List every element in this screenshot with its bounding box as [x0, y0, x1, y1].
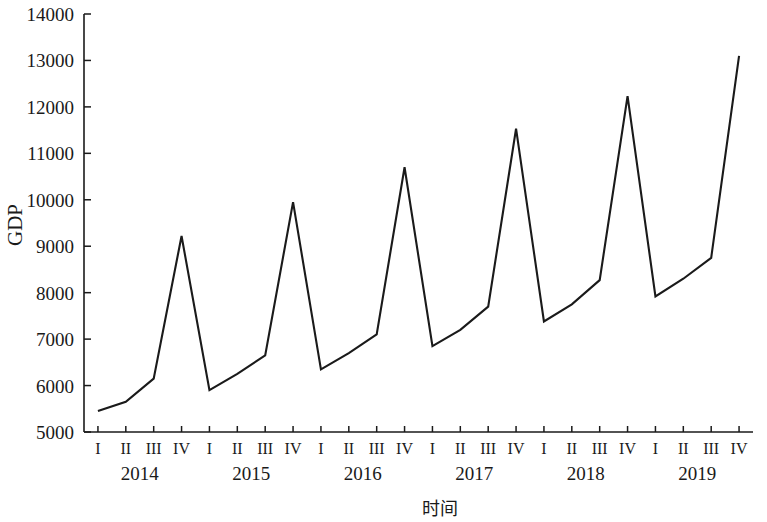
- y-axis-tick-label: 13000: [27, 50, 75, 71]
- plot-series-group: [98, 56, 739, 411]
- y-axis-tick-label: 7000: [36, 329, 74, 350]
- x-axis-year-label: 2016: [344, 463, 382, 484]
- x-axis-tick-marks: [98, 426, 739, 432]
- x-axis-year-label: 2019: [678, 463, 716, 484]
- x-axis-group: IIIIIIIVIIIIIIIVIIIIIIIVIIIIIIIVIIIIIIIV…: [84, 426, 753, 484]
- x-axis-quarter-labels: IIIIIIIVIIIIIIIVIIIIIIIVIIIIIIIVIIIIIIIV…: [95, 440, 748, 457]
- y-axis-group: 1400013000120001100010000900080007000600…: [27, 4, 92, 443]
- x-axis-year-labels: 201420152016201720182019: [121, 463, 717, 484]
- y-axis-tick-label: 8000: [36, 283, 74, 304]
- x-axis-year-label: 2017: [455, 463, 493, 484]
- x-axis-quarter-label: III: [592, 440, 608, 457]
- x-axis-quarter-label: I: [207, 440, 212, 457]
- x-axis-quarter-label: I: [430, 440, 435, 457]
- y-axis-tick-label: 14000: [27, 4, 75, 25]
- x-axis-quarter-label: III: [257, 440, 273, 457]
- y-axis-tick-label: 10000: [27, 190, 75, 211]
- x-axis-quarter-label: II: [120, 440, 131, 457]
- x-axis-quarter-label: IV: [173, 440, 190, 457]
- x-axis-quarter-label: II: [566, 440, 577, 457]
- x-axis-quarter-label: I: [541, 440, 546, 457]
- x-axis-quarter-label: II: [455, 440, 466, 457]
- y-axis-tick-marks: [84, 14, 91, 432]
- x-axis-year-label: 2014: [121, 463, 160, 484]
- x-axis-quarter-label: IV: [619, 440, 636, 457]
- x-axis-quarter-label: I: [318, 440, 323, 457]
- y-axis-title: GDP: [3, 204, 27, 246]
- x-axis-quarter-label: III: [369, 440, 385, 457]
- x-axis-quarter-label: IV: [396, 440, 413, 457]
- x-axis-year-label: 2018: [567, 463, 605, 484]
- x-axis-quarter-label: III: [480, 440, 496, 457]
- x-axis-quarter-label: I: [653, 440, 658, 457]
- y-axis-tick-label: 5000: [36, 422, 74, 443]
- x-axis-quarter-label: III: [703, 440, 719, 457]
- y-axis-tick-label: 6000: [36, 376, 74, 397]
- x-axis-title: 时间: [422, 498, 458, 519]
- x-axis-quarter-label: III: [146, 440, 162, 457]
- x-axis-quarter-label: II: [343, 440, 354, 457]
- gdp-series-line: [98, 56, 739, 411]
- x-axis-quarter-label: IV: [731, 440, 748, 457]
- y-axis-tick-label: 12000: [27, 97, 75, 118]
- x-axis-quarter-label: IV: [508, 440, 525, 457]
- x-axis-quarter-label: II: [678, 440, 689, 457]
- y-axis-tick-label: 11000: [27, 143, 74, 164]
- chart-canvas: 1400013000120001100010000900080007000600…: [0, 0, 767, 522]
- x-axis-year-label: 2015: [232, 463, 270, 484]
- x-axis-quarter-label: II: [232, 440, 243, 457]
- x-axis-quarter-label: I: [95, 440, 100, 457]
- gdp-line-chart: 1400013000120001100010000900080007000600…: [0, 0, 767, 522]
- y-axis-tick-label: 9000: [36, 236, 74, 257]
- y-axis-tick-labels: 1400013000120001100010000900080007000600…: [27, 4, 75, 443]
- x-axis-quarter-label: IV: [285, 440, 302, 457]
